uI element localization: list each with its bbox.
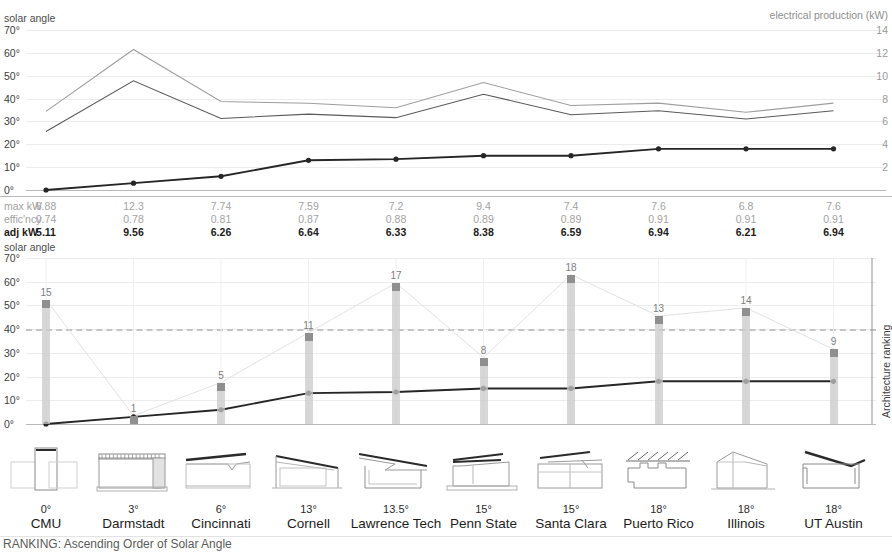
table-cell: 7.59 (269, 200, 349, 212)
angle-label: 0° (0, 503, 92, 515)
rank-value-label: 15 (33, 287, 59, 298)
table-row-max-kw: max kW 6.8812.37.747.597.29.47.47.66.87.… (0, 200, 892, 213)
rank-bar (480, 358, 488, 424)
table-cell: 7.4 (531, 200, 611, 212)
table-cell: 9.56 (94, 226, 174, 238)
rank-bar (392, 283, 400, 424)
section-cornell-icon (268, 440, 350, 498)
data-point (306, 158, 311, 163)
data-point (568, 153, 573, 158)
series-adj-kW (46, 81, 834, 132)
school-name-label: Santa Clara (523, 516, 619, 531)
table-cell: 5.11 (6, 226, 86, 238)
metrics-table: max kW 6.8812.37.747.597.29.47.47.66.87.… (0, 196, 892, 238)
data-point (656, 146, 661, 151)
rank-value-label: 1 (121, 403, 147, 414)
angle-label: 13° (263, 503, 355, 515)
school-name-label: Cornell (261, 516, 357, 531)
table-cell: 0.91 (794, 213, 874, 225)
rank-bar (305, 333, 313, 424)
rank-value-label: 8 (471, 345, 497, 356)
table-cell: 6.94 (619, 226, 699, 238)
section-santaclara-icon (530, 440, 612, 498)
angle-label: 13.5° (350, 503, 442, 515)
angle-label: 15° (525, 503, 617, 515)
table-top-rule (0, 196, 892, 197)
table-row-efficiency: effic'ncy 0.740.780.810.870.880.890.890.… (0, 213, 892, 226)
table-cell: 0.88 (356, 213, 436, 225)
section-lawrencetech-icon (355, 440, 437, 498)
section-pennstate-icon (443, 440, 525, 498)
series-solar-angle (46, 149, 834, 190)
rank-value-label: 9 (821, 336, 847, 347)
table-cell: 6.33 (356, 226, 436, 238)
school-name-label: Illinois (698, 516, 794, 531)
section-cmu-icon (5, 440, 87, 498)
table-cell: 7.2 (356, 200, 436, 212)
table-cell: 7.74 (181, 200, 261, 212)
solar-decathlon-chart-page: solar angle electrical production (kW) 7… (0, 0, 892, 555)
table-cell: 6.8 (706, 200, 786, 212)
section-puertorico-icon (618, 440, 700, 498)
school-name-label: CMU (0, 516, 94, 531)
table-cell: 0.91 (619, 213, 699, 225)
angle-label: 6° (175, 503, 267, 515)
school-name-label: Puerto Rico (611, 516, 707, 531)
rank-value-label: 18 (558, 262, 584, 273)
angle-label: 18° (788, 503, 880, 515)
table-cell: 0.87 (269, 213, 349, 225)
table-cell: 6.21 (706, 226, 786, 238)
data-point (131, 181, 136, 186)
rank-value-label: 17 (383, 270, 409, 281)
rank-bar-cap (217, 383, 225, 391)
rank-bar-cap (655, 316, 663, 324)
rank-bar-cap (392, 283, 400, 291)
angle-label: 18° (613, 503, 705, 515)
rank-bar (830, 349, 838, 424)
data-point (481, 153, 486, 158)
rank-value-label: 11 (296, 320, 322, 331)
table-cell: 0.89 (531, 213, 611, 225)
table-cell: 12.3 (94, 200, 174, 212)
school-name-label: Darmstadt (86, 516, 182, 531)
rank-bar (742, 308, 750, 424)
rank-value-label: 13 (646, 303, 672, 314)
table-cell: 6.26 (181, 226, 261, 238)
table-cell: 6.88 (6, 200, 86, 212)
rank-bar-cap (305, 333, 313, 341)
rank-bar-cap (567, 275, 575, 283)
school-name-label: Lawrence Tech (348, 516, 444, 531)
section-utaustin-icon (793, 440, 875, 498)
angle-label: 15° (438, 503, 530, 515)
angle-label: 3° (88, 503, 180, 515)
table-cell: 8.38 (444, 226, 524, 238)
section-cincinnati-icon (180, 440, 262, 498)
ranking-connector (46, 275, 834, 416)
table-cell: 7.6 (794, 200, 874, 212)
data-point (743, 146, 748, 151)
table-cell: 6.59 (531, 226, 611, 238)
table-cell: 0.91 (706, 213, 786, 225)
table-cell: 6.94 (794, 226, 874, 238)
rank-bar (655, 316, 663, 424)
school-names-row: CMUDarmstadtCincinnatiCornellLawrence Te… (0, 516, 892, 536)
rank-value-label: 5 (208, 370, 234, 381)
table-cell: 0.81 (181, 213, 261, 225)
table-cell: 0.74 (6, 213, 86, 225)
school-name-label: UT Austin (786, 516, 882, 531)
table-cell: 0.78 (94, 213, 174, 225)
rank-bar-cap (830, 349, 838, 357)
series-max-kW (46, 49, 834, 112)
rank-bar (42, 300, 50, 425)
data-point (218, 174, 223, 179)
building-section-thumbnails (0, 440, 892, 502)
rank-bar-cap (742, 308, 750, 316)
chart-ranking-vs-solar: solar angle 70°60°50°40°30°20°10°0° 1515… (0, 238, 892, 434)
rank-axis-title: Architecture ranking (880, 325, 892, 418)
rank-bar-cap (480, 358, 488, 366)
table-cell: 7.6 (619, 200, 699, 212)
section-darmstadt-icon (93, 440, 175, 498)
rank-bar (567, 275, 575, 424)
footer-caption: RANKING: Ascending Order of Solar Angle (3, 537, 232, 551)
table-cell: 0.89 (444, 213, 524, 225)
